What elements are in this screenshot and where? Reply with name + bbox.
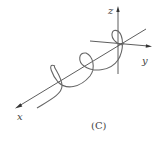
- y-axis-label: y: [141, 55, 148, 66]
- figure-caption: (C): [91, 120, 107, 131]
- x-axis-arrow-icon: [15, 103, 22, 108]
- helix-diagram: z y x (C): [0, 0, 163, 141]
- z-axis-label: z: [107, 5, 114, 16]
- z-axis-arrow-icon: [116, 6, 119, 12]
- y-axis-arrow-icon: [146, 44, 152, 48]
- x-axis: [19, 29, 146, 106]
- x-axis-label: x: [17, 111, 23, 122]
